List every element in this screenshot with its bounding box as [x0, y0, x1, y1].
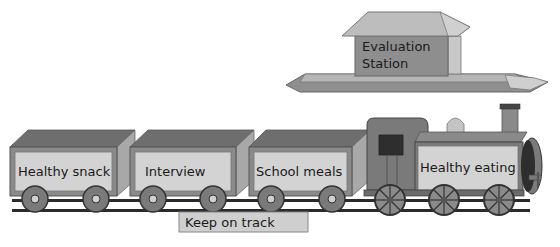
track-sign-label: Keep on track: [185, 215, 275, 230]
wheel: [375, 185, 405, 215]
wagon-label: Healthy snack: [18, 164, 111, 179]
train-diagram: Evaluation Station Healthy snack Intervi…: [0, 0, 560, 247]
evaluation-station: Evaluation Station: [286, 12, 548, 92]
wheel: [484, 185, 514, 215]
wagon-label: Interview: [145, 164, 206, 179]
cab-window: [379, 135, 403, 155]
wagon-label: School meals: [256, 164, 343, 179]
wheel: [429, 185, 459, 215]
engine-label: Healthy eating: [420, 160, 516, 175]
buffer: [529, 175, 541, 180]
engine-healthy-eating: Healthy eating: [364, 104, 542, 215]
station-label-line1: Evaluation: [362, 39, 431, 54]
keep-on-track-sign: Keep on track: [179, 212, 308, 232]
station-label-line2: Station: [362, 56, 408, 71]
